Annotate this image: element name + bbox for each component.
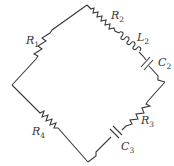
wire — [88, 137, 111, 162]
circuit-diagram: R1 R2 L2 C2 R3 C3 R4 — [0, 0, 174, 166]
wire — [12, 5, 87, 85]
edge-top-right — [87, 5, 165, 82]
label-R4: R4 — [31, 125, 45, 140]
label-C2: C2 — [158, 56, 171, 71]
edge-left-bottom — [12, 85, 88, 162]
wire — [12, 85, 88, 162]
edge-left-top — [12, 5, 87, 85]
label-L2: L2 — [136, 31, 149, 46]
label-C3: C3 — [121, 140, 134, 155]
label-R3: R3 — [140, 114, 154, 129]
label-R1: R1 — [25, 34, 39, 49]
wire — [139, 52, 146, 60]
label-R2: R2 — [110, 9, 124, 24]
